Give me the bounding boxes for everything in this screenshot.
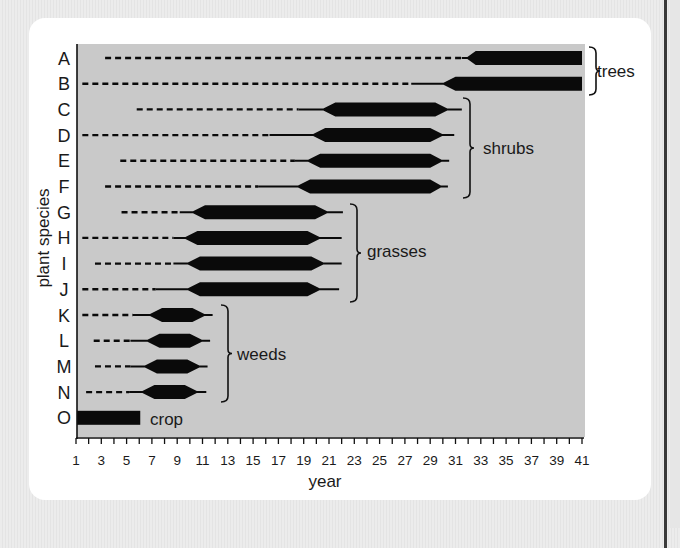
group-crop: crop — [150, 410, 183, 429]
abundance-shape — [462, 51, 582, 65]
x-tick-label: 7 — [148, 453, 156, 468]
x-tick-label: 23 — [347, 453, 362, 468]
x-tick-label: 21 — [321, 453, 336, 468]
group-label: trees — [597, 62, 635, 81]
x-tick-label: 25 — [372, 453, 387, 468]
x-tick-label: 27 — [397, 453, 412, 468]
species-label-C: C — [58, 100, 71, 120]
x-tick-label: 5 — [123, 453, 131, 468]
x-tick-label: 29 — [423, 453, 438, 468]
x-tick-label: 31 — [448, 453, 463, 468]
group-label: crop — [150, 410, 183, 429]
crop-bar — [77, 411, 140, 425]
species-label-D: D — [58, 126, 71, 146]
species-label-B: B — [58, 74, 70, 94]
x-tick-label: 3 — [98, 453, 106, 468]
group-label: grasses — [367, 242, 427, 261]
y-axis-category-labels: ABCDEFGHIJKLMNO — [57, 49, 72, 429]
species-label-K: K — [58, 306, 70, 326]
species-label-J: J — [60, 280, 69, 300]
species-bar-O — [77, 411, 140, 425]
x-axis-title: year — [308, 472, 341, 491]
group-label: weeds — [236, 345, 286, 364]
species-label-N: N — [58, 383, 71, 403]
species-label-F: F — [59, 177, 70, 197]
abundance-shape — [295, 154, 449, 168]
x-tick-label: 13 — [220, 453, 235, 468]
x-tick-label: 17 — [271, 453, 286, 468]
abundance-shape — [180, 205, 343, 219]
x-tick-label: 33 — [473, 453, 488, 468]
species-label-I: I — [61, 254, 66, 274]
species-label-E: E — [58, 151, 70, 171]
x-tick-label: 1 — [72, 453, 80, 468]
x-tick-label: 41 — [574, 453, 589, 468]
plot-area — [77, 44, 585, 437]
x-tick-label: 19 — [296, 453, 311, 468]
species-label-H: H — [58, 228, 71, 248]
x-tick-label: 11 — [195, 453, 209, 468]
x-axis-tick-labels: 1357911131517192123252729313335373941 — [72, 453, 589, 468]
group-trees: trees — [589, 47, 635, 95]
species-label-O: O — [57, 408, 71, 428]
group-label: shrubs — [483, 139, 534, 158]
species-label-M: M — [57, 357, 72, 377]
y-axis-title: plant species — [34, 188, 53, 287]
x-tick-label: 37 — [524, 453, 539, 468]
x-tick-label: 35 — [499, 453, 514, 468]
species-label-G: G — [57, 203, 71, 223]
x-tick-label: 15 — [246, 453, 261, 468]
x-tick-label: 39 — [549, 453, 564, 468]
x-tick-label: 9 — [173, 453, 181, 468]
species-label-A: A — [58, 49, 70, 69]
species-label-L: L — [59, 331, 69, 351]
x-axis-ticks — [76, 438, 582, 444]
